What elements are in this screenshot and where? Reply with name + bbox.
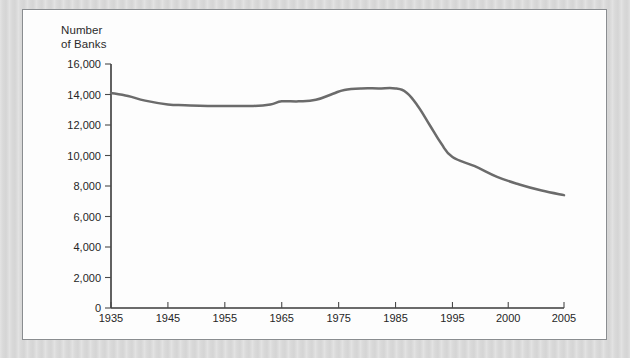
y-axis-tick-label: 16,000 [67, 58, 101, 70]
x-axis-tick-label: 2005 [552, 312, 576, 324]
x-axis-tick-label: 1945 [156, 312, 180, 324]
y-axis-tick-label: 12,000 [67, 119, 101, 131]
y-axis-tick-label: 14,000 [67, 89, 101, 101]
series-group [111, 88, 564, 195]
x-axis-tick-label: 1935 [99, 312, 123, 324]
x-axis-tick-labels: 193519451955196519751985199520002005 [99, 312, 576, 324]
y-axis-tick-label: 8,000 [73, 180, 101, 192]
y-axis-tick-label: 2,000 [73, 272, 101, 284]
y-axis-tick-labels: 02,0004,0006,0008,00010,00012,00014,0001… [67, 58, 101, 314]
y-axis-tick-label: 4,000 [73, 241, 101, 253]
y-axis-tick-label: 6,000 [73, 211, 101, 223]
line-chart: 02,0004,0006,0008,00010,00012,00014,0001… [23, 10, 608, 341]
chart-panel: Numberof Banks 02,0004,0006,0008,00010,0… [22, 9, 607, 340]
x-axis-tick-label: 1995 [440, 312, 464, 324]
y-axis-ticks [105, 64, 111, 308]
y-axis-tick-label: 10,000 [67, 150, 101, 162]
x-axis-tick-label: 2000 [496, 312, 520, 324]
y-axis-group: 02,0004,0006,0008,00010,00012,00014,0001… [67, 58, 111, 314]
x-axis-group: 193519451955196519751985199520002005 [99, 302, 576, 324]
x-axis-tick-label: 1985 [383, 312, 407, 324]
x-axis-tick-label: 1955 [213, 312, 237, 324]
x-axis-ticks [111, 302, 564, 308]
figure-root: Numberof Banks 02,0004,0006,0008,00010,0… [0, 0, 630, 358]
x-axis-tick-label: 1965 [269, 312, 293, 324]
series-line-number-of-banks [111, 88, 564, 195]
x-axis-tick-label: 1975 [326, 312, 350, 324]
